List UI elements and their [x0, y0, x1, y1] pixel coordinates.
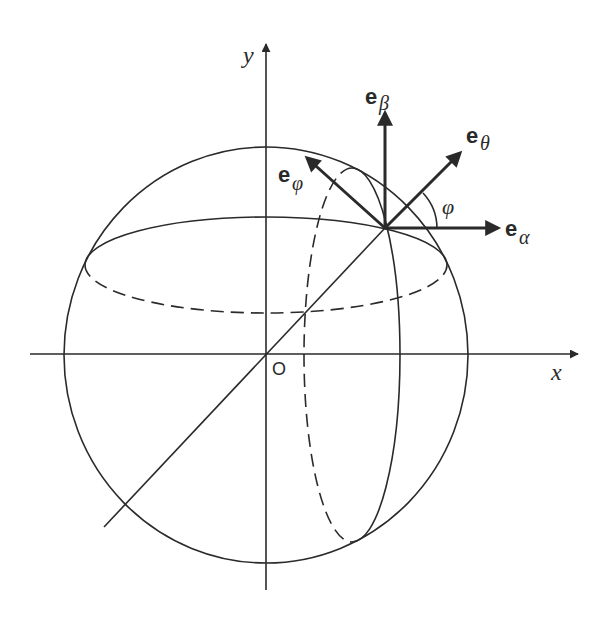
y-axis-label: y — [241, 42, 254, 68]
svg-text:e: e — [278, 162, 290, 187]
e-theta-label: e θ — [466, 123, 490, 154]
sphere-diagram: y x O e β e θ e α e φ φ — [0, 0, 595, 617]
svg-text:e: e — [365, 84, 377, 109]
svg-text:α: α — [519, 226, 530, 248]
phi-angle-label: φ — [442, 194, 454, 219]
x-axis-label: x — [550, 359, 562, 385]
svg-text:φ: φ — [292, 172, 303, 195]
phi-angle-arc — [423, 193, 437, 228]
svg-text:β: β — [378, 92, 389, 115]
meridian-circle-back — [304, 168, 352, 542]
e-alpha-label: e α — [505, 216, 530, 248]
e-beta-label: e β — [365, 84, 389, 115]
svg-text:e: e — [466, 123, 478, 148]
origin-label: O — [272, 359, 286, 379]
svg-text:e: e — [505, 216, 517, 241]
e-phi-label: e φ — [278, 162, 303, 195]
radial-line — [104, 228, 385, 527]
svg-text:θ: θ — [480, 132, 490, 154]
